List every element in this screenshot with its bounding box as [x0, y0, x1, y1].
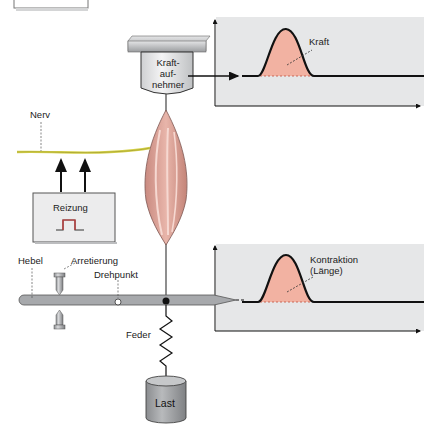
- stimulation-label: Reizung: [53, 203, 88, 213]
- load-label: Last: [155, 398, 175, 410]
- spring: [160, 305, 172, 376]
- force-sensor-label: Kraft- auf- nehmer: [145, 57, 191, 90]
- nerve-label: Nerv: [30, 110, 50, 120]
- stimulator-box: [33, 193, 117, 244]
- arrest-screw-top: [54, 273, 65, 295]
- force-graph: [215, 17, 424, 106]
- pivot-label: Drehpunkt: [94, 270, 138, 280]
- force-sensor-label-line3: nehmer: [145, 79, 191, 90]
- force-sensor-label-line2: auf-: [145, 68, 191, 79]
- muscle: [145, 94, 187, 300]
- lever-label: Hebel: [18, 256, 43, 266]
- stimulus-electrodes: [61, 160, 85, 192]
- force-curve-label: Kraft: [309, 37, 329, 47]
- force-sensor-label-line1: Kraft-: [145, 57, 191, 68]
- arrest-label: Arretierung: [71, 256, 118, 266]
- contraction-curve-label: Kontraktion (Länge): [310, 254, 358, 276]
- diagram-canvas: [0, 0, 439, 435]
- contraction-label-line1: Kontraktion: [310, 254, 358, 265]
- nerve: [17, 122, 150, 153]
- corner-box: [14, 0, 88, 11]
- contraction-label-line2: (Länge): [310, 265, 358, 276]
- spring-label: Feder: [126, 330, 151, 340]
- arrest-screw-bottom: [54, 310, 65, 329]
